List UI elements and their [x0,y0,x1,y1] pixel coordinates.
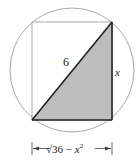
dim-arrow-left [33,147,39,151]
side-x-label: x [115,67,120,78]
diagram-canvas [0,0,136,162]
dim-prefix: √36 − [46,143,75,155]
dim-exp: 2 [80,142,84,150]
hypotenuse-label: 6 [63,56,69,68]
dim-arrow-right [105,147,111,151]
width-dimension-label: √36 − x2 [46,143,83,155]
